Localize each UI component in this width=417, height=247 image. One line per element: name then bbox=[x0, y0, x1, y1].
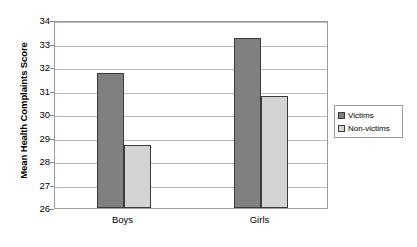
bar bbox=[124, 145, 151, 208]
x-axis-tick-label: Girls bbox=[220, 214, 300, 225]
gridline bbox=[55, 69, 327, 70]
gridline bbox=[55, 22, 327, 23]
bar bbox=[261, 96, 288, 208]
y-axis-tick-label: 26 bbox=[24, 204, 50, 214]
legend-swatch-icon bbox=[338, 112, 345, 119]
gridline bbox=[55, 46, 327, 47]
y-axis-tick-label: 33 bbox=[24, 40, 50, 50]
x-axis-tick-labels: BoysGirls bbox=[54, 214, 328, 230]
y-axis-tick-label: 32 bbox=[24, 63, 50, 73]
y-axis-tick-label: 27 bbox=[24, 181, 50, 191]
bar-chart: Mean Health Complaints Score 26272829303… bbox=[0, 0, 417, 247]
y-axis-tick-labels: 262728293031323334 bbox=[20, 21, 50, 209]
bar bbox=[97, 73, 124, 208]
legend-swatch-icon bbox=[338, 125, 345, 132]
chart-legend: VictimsNon-victims bbox=[334, 105, 403, 138]
y-axis-tick-label: 34 bbox=[24, 16, 50, 26]
y-axis-tick-label: 31 bbox=[24, 87, 50, 97]
y-axis-tick-label: 28 bbox=[24, 157, 50, 167]
y-axis-tick-label: 30 bbox=[24, 110, 50, 120]
legend-label: Non-victims bbox=[348, 125, 390, 133]
legend-item: Victims bbox=[338, 109, 399, 122]
plot-area bbox=[54, 21, 328, 209]
legend-label: Victims bbox=[348, 112, 374, 120]
x-axis-tick-label: Boys bbox=[83, 214, 163, 225]
bar bbox=[234, 38, 261, 208]
y-axis-tick-mark bbox=[50, 209, 54, 210]
y-axis-tick-label: 29 bbox=[24, 134, 50, 144]
legend-item: Non-victims bbox=[338, 122, 399, 135]
